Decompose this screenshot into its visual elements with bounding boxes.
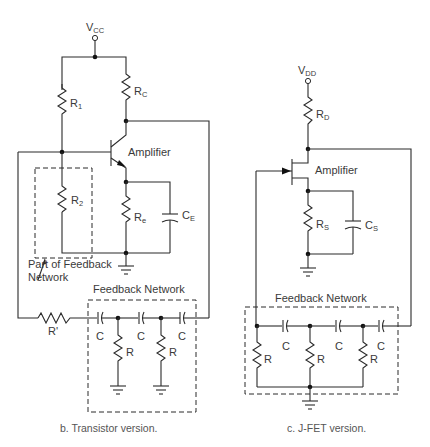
capacitor-ce: CE (162, 209, 195, 253)
vdd-terminal (305, 78, 310, 83)
feedback-network-title-b: Feedback Network (93, 283, 185, 295)
svg-text:RS: RS (316, 218, 329, 232)
vcc-terminal (92, 35, 97, 40)
resistor-r2: R2 (58, 182, 83, 212)
part-of-feedback-label: Part of Feedback (28, 258, 112, 270)
svg-text:R: R (264, 353, 272, 365)
svg-text:R: R (370, 353, 378, 365)
panel-transistor: VCC R1 RC Amplifier (18, 21, 209, 434)
svg-text:Re: Re (134, 211, 146, 225)
svg-text:RC: RC (134, 85, 148, 99)
svg-text:R: R (169, 346, 177, 358)
svg-text:RD: RD (316, 108, 330, 122)
svg-text:C: C (282, 340, 290, 352)
svg-text:CE: CE (182, 209, 195, 223)
ground-icon (300, 254, 316, 276)
circuit-diagram: VCC R1 RC Amplifier (0, 0, 430, 447)
svg-text:CS: CS (365, 219, 378, 233)
vdd-label: VDD (298, 64, 317, 78)
svg-text:C: C (178, 330, 186, 342)
svg-text:R1: R1 (70, 97, 82, 111)
resistor-r-c1: R (253, 326, 272, 387)
svg-text:R': R' (48, 325, 58, 337)
capacitor-cs: CS (345, 219, 378, 254)
resistor-r-c3: R (359, 326, 378, 387)
feedback-network-box-c (245, 307, 398, 394)
resistor-r-prime: R' (38, 313, 97, 337)
svg-text:R: R (317, 353, 325, 365)
part-of-feedback-label-2: Network (28, 271, 69, 283)
ground-icon (118, 253, 134, 274)
amplifier-label-b: Amplifier (128, 146, 171, 158)
panel-jfet: VDD RD Amplifier RS CS (245, 64, 411, 434)
capacitor-c2-c: C (335, 320, 363, 352)
resistor-rd: RD (304, 84, 330, 149)
jfet-transistor (256, 149, 308, 191)
capacitor-c1: C (96, 312, 118, 342)
resistor-re: Re (122, 182, 146, 253)
capacitor-c3: C (178, 312, 209, 342)
capacitor-c3-c: C (377, 320, 411, 352)
ground-icon (302, 387, 318, 409)
resistor-rs: RS (304, 191, 329, 254)
part-of-feedback-box (35, 168, 92, 258)
svg-text:C: C (377, 340, 385, 352)
feedback-network-title-c: Feedback Network (275, 292, 367, 304)
resistor-r1: R1 (58, 84, 82, 152)
svg-text:C: C (137, 330, 145, 342)
amplifier-label-c: Amplifier (315, 164, 358, 176)
capacitor-c2: C (137, 312, 161, 342)
svg-text:R: R (126, 346, 134, 358)
caption-b: b. Transistor version. (60, 422, 157, 434)
svg-text:C: C (335, 340, 343, 352)
caption-c: c. J-FET version. (287, 422, 366, 434)
bjt-transistor (111, 121, 126, 182)
svg-text:C: C (96, 330, 104, 342)
capacitor-c1-c: C (282, 320, 310, 352)
resistor-r-b1: R (110, 318, 134, 394)
vcc-label: VCC (86, 21, 105, 35)
svg-text:R2: R2 (71, 194, 83, 208)
resistor-r-b2: R (153, 318, 177, 394)
resistor-r-c2: R (306, 326, 325, 387)
resistor-rc: RC (122, 70, 148, 121)
